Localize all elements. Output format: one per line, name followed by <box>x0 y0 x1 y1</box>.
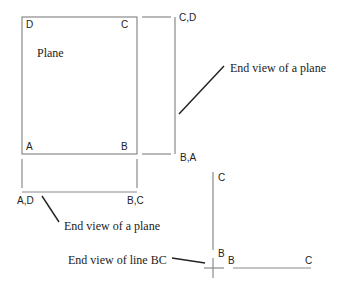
line-view-caption: End view of line BC <box>68 253 167 267</box>
edge-label-bottom: B,A <box>180 152 196 163</box>
edge-label-left: A,D <box>17 195 34 206</box>
plane-rectangle <box>22 17 137 154</box>
orthographic-projection-diagram: D C A B Plane C,D B,A End view of a plan… <box>0 0 346 296</box>
bottom-view-caption: End view of a plane <box>64 219 160 233</box>
front-view-plane: D C A B Plane <box>22 17 137 154</box>
plane-label: Plane <box>37 46 64 60</box>
side-view-edge: C,D B,A End view of a plane <box>142 12 326 163</box>
corner-label-top-right: C <box>121 19 128 30</box>
line-bc-horizontal-left-label: B <box>228 255 235 266</box>
bottom-caption-leader <box>42 196 59 222</box>
corner-label-top-left: D <box>26 19 33 30</box>
bottom-view-edge: A,D B,C End view of a plane <box>17 159 160 233</box>
edge-label-top: C,D <box>179 12 196 23</box>
side-view-caption: End view of a plane <box>230 61 326 75</box>
line-caption-leader <box>172 258 205 263</box>
line-bc-vertical-bottom-label: B <box>218 248 225 259</box>
line-bc-horizontal-right-label: C <box>305 255 312 266</box>
corner-label-bottom-right: B <box>121 141 128 152</box>
corner-label-bottom-left: A <box>26 141 33 152</box>
line-bc-vertical-top-label: C <box>218 172 225 183</box>
edge-label-right: B,C <box>127 195 144 206</box>
side-caption-leader <box>179 66 224 114</box>
